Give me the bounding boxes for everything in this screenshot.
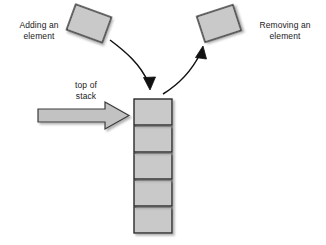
stack-box xyxy=(134,126,172,152)
stack-box xyxy=(134,180,172,206)
stack-box xyxy=(134,153,172,179)
push-arrow xyxy=(110,40,156,90)
top-of-stack-block-arrow xyxy=(38,102,129,129)
label-adding-an-element: Adding an element xyxy=(6,20,72,42)
stack-diagram: Adding an element Removing an element to… xyxy=(0,0,326,245)
pop-arrow xyxy=(163,46,207,94)
stack-box-top xyxy=(134,99,172,125)
label-removing-an-element: Removing an element xyxy=(248,20,322,42)
stack-group xyxy=(134,99,172,233)
outgoing-element-box xyxy=(197,5,241,42)
incoming-element-box xyxy=(67,4,112,42)
stack-box xyxy=(134,207,172,233)
label-top-of-stack: top of stack xyxy=(57,80,115,102)
